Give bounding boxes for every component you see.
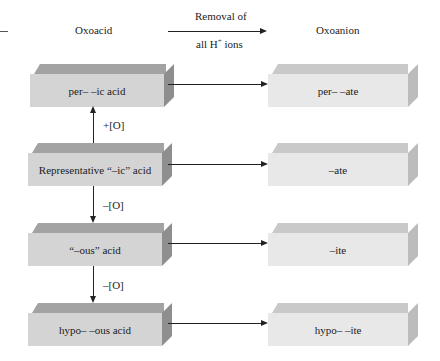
row-arrow-head xyxy=(261,81,268,87)
transition-label: –[O] xyxy=(103,199,124,211)
acid-label: hypo– –ous acid xyxy=(28,313,162,346)
acid-label: Representative “–ic” acid xyxy=(28,153,162,186)
oxoanion-header: Oxoanion xyxy=(316,24,359,36)
removal-label-top: Removal of xyxy=(195,10,247,22)
row-arrow-line xyxy=(168,243,262,244)
anion-label: –ate xyxy=(268,153,408,186)
header-arrow-head xyxy=(260,28,267,34)
acid-label: “–ous” acid xyxy=(28,233,162,266)
margin-dash xyxy=(0,31,8,32)
acid-box-per-ic: per– –ic acid xyxy=(30,64,174,107)
anion-box-ate: –ate xyxy=(268,143,418,186)
row-arrow-head xyxy=(261,161,268,167)
oxoacid-header: Oxoacid xyxy=(75,24,112,36)
transition-label: +[O] xyxy=(103,119,124,131)
transition-label: –[O] xyxy=(103,279,124,291)
row-arrow-line xyxy=(168,323,262,324)
oxidation-arrow-head xyxy=(90,106,96,113)
acid-box-representative-ic: Representative “–ic” acid xyxy=(28,143,172,186)
header-arrow-line xyxy=(168,31,261,32)
anion-box-hypo-ite: hypo– –ite xyxy=(268,303,418,346)
anion-box-ite: –ite xyxy=(268,223,418,266)
acid-label: per– –ic acid xyxy=(30,74,164,107)
anion-box-per-ate: per– –ate xyxy=(268,64,418,107)
oxidation-arrow-line xyxy=(93,112,94,143)
row-arrow-head xyxy=(261,320,268,326)
reduction-arrow-line xyxy=(93,266,94,297)
anion-label: –ite xyxy=(268,233,408,266)
reduction-arrow-head xyxy=(90,296,96,303)
reduction-arrow-head xyxy=(90,216,96,223)
row-arrow-head xyxy=(261,240,268,246)
anion-label: hypo– –ite xyxy=(268,313,408,346)
reduction-arrow-line xyxy=(93,186,94,217)
row-arrow-line xyxy=(168,84,262,85)
acid-box-hypo-ous: hypo– –ous acid xyxy=(28,303,172,346)
removal-label-bottom: all H+ ions xyxy=(196,37,243,50)
anion-label: per– –ate xyxy=(268,74,408,107)
acid-box-ous: “–ous” acid xyxy=(28,223,172,266)
row-arrow-line xyxy=(168,164,262,165)
